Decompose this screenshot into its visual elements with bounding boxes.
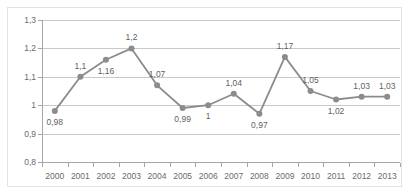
data-point-marker	[308, 88, 314, 94]
data-series	[0, 0, 409, 194]
data-point-label: 0,98	[47, 118, 64, 127]
data-point-label: 1,07	[149, 70, 166, 79]
line-chart: 0,80,911,11,21,3 20002001200220032004200…	[0, 0, 409, 194]
data-point-label: 1,03	[379, 82, 396, 91]
data-point-marker	[333, 97, 339, 103]
data-point-marker	[180, 105, 186, 111]
data-point-label: 1	[206, 112, 211, 121]
data-point-label: 1,03	[353, 82, 370, 91]
data-point-label: 1,1	[74, 62, 86, 71]
data-point-label: 1,2	[126, 33, 138, 42]
data-point-marker	[129, 45, 135, 51]
data-point-marker	[384, 94, 390, 100]
data-point-label: 0,99	[174, 115, 191, 124]
data-point-label: 0,97	[251, 121, 268, 130]
data-point-marker	[282, 54, 288, 60]
data-point-marker	[77, 74, 83, 80]
data-point-label: 1,02	[328, 107, 345, 116]
data-point-label: 1,04	[226, 79, 243, 88]
data-point-marker	[256, 111, 262, 117]
data-point-marker	[103, 57, 109, 63]
data-point-marker	[205, 102, 211, 108]
data-point-label: 1,17	[277, 42, 294, 51]
data-point-label: 1,05	[302, 76, 319, 85]
data-point-marker	[52, 108, 58, 114]
data-point-label: 1,16	[98, 67, 115, 76]
data-point-marker	[231, 91, 237, 97]
data-point-marker	[154, 82, 160, 88]
data-point-marker	[359, 94, 365, 100]
